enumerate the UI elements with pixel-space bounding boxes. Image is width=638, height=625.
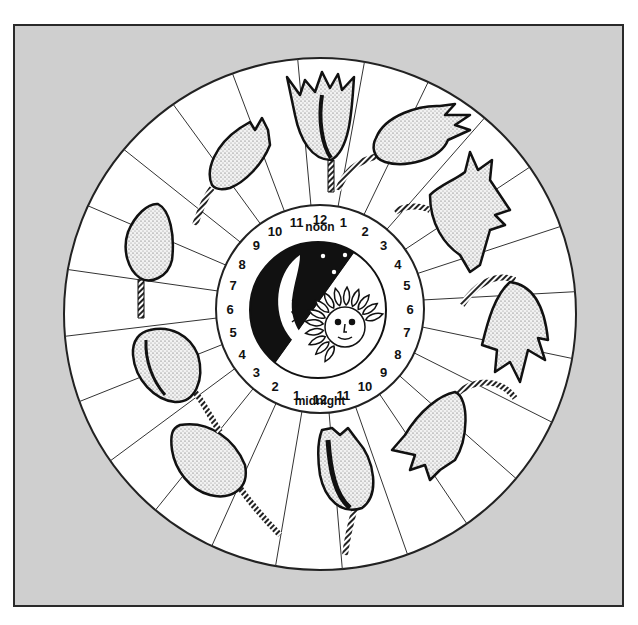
hour-label: 5 <box>403 278 410 293</box>
hour-label: 2 <box>271 379 278 394</box>
hour-label: 10 <box>268 224 282 239</box>
noon-label: noon <box>305 220 334 234</box>
hour-label: 2 <box>361 224 368 239</box>
hour-label: 3 <box>380 238 387 253</box>
tulip-clock-diagram: 121234567891011121234567891011 noon midn… <box>0 0 638 625</box>
hour-label: 6 <box>406 302 413 317</box>
hour-label: 3 <box>253 365 260 380</box>
midnight-label: midnight <box>295 394 346 408</box>
hour-label: 6 <box>226 302 233 317</box>
hour-label: 8 <box>394 347 401 362</box>
hour-label: 9 <box>380 365 387 380</box>
hour-label: 4 <box>238 347 246 362</box>
hour-label: 1 <box>340 215 347 230</box>
hour-label: 5 <box>229 325 236 340</box>
hour-label: 9 <box>253 238 260 253</box>
hour-label: 11 <box>290 215 304 230</box>
hour-label: 7 <box>229 278 236 293</box>
hour-label: 4 <box>394 257 402 272</box>
hour-label: 7 <box>403 325 410 340</box>
hour-label: 8 <box>238 257 245 272</box>
hour-label: 10 <box>358 379 372 394</box>
